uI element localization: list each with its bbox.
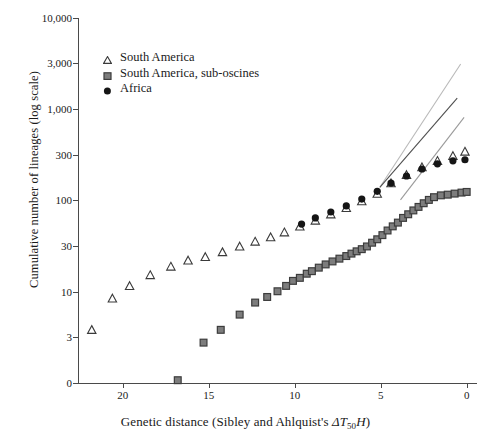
- data-point-triangle: [280, 228, 288, 236]
- data-point-circle: [374, 188, 381, 195]
- chart-figure: Cumulative number of lineages (log scale…: [0, 0, 491, 441]
- data-point-circle: [449, 157, 456, 164]
- data-point-square: [463, 189, 470, 196]
- data-point-circle: [312, 214, 319, 221]
- data-point-triangle: [218, 248, 226, 256]
- data-point-square: [217, 326, 224, 333]
- data-point-triangle: [251, 237, 259, 245]
- data-point-square: [431, 194, 438, 201]
- data-point-square: [236, 311, 243, 318]
- data-point-triangle: [266, 233, 274, 241]
- data-point-square: [283, 283, 290, 290]
- data-point-triangle: [184, 256, 192, 264]
- data-point-circle: [403, 172, 410, 179]
- data-point-circle: [327, 208, 334, 215]
- data-point-circle: [298, 220, 305, 227]
- data-point-square: [444, 191, 451, 198]
- data-point-square: [308, 268, 315, 275]
- data-point-circle: [418, 165, 425, 172]
- data-point-square: [296, 274, 303, 281]
- data-points-layer: [0, 0, 491, 441]
- data-point-triangle: [201, 253, 209, 261]
- data-point-triangle: [235, 242, 243, 250]
- data-point-square: [264, 294, 271, 301]
- data-point-triangle: [125, 282, 133, 290]
- data-point-square: [451, 190, 458, 197]
- data-point-triangle: [461, 147, 469, 155]
- data-point-circle: [461, 156, 468, 163]
- data-point-triangle: [108, 294, 116, 302]
- data-point-circle: [387, 180, 394, 187]
- data-point-triangle: [88, 326, 96, 334]
- data-point-square: [336, 255, 343, 262]
- data-point-square: [315, 264, 322, 271]
- data-point-square: [174, 377, 181, 384]
- data-point-circle: [343, 202, 350, 209]
- data-point-triangle: [146, 271, 154, 279]
- data-point-circle: [434, 160, 441, 167]
- data-point-square: [200, 339, 207, 346]
- data-point-square: [322, 261, 329, 268]
- data-point-square: [252, 299, 259, 306]
- data-point-circle: [358, 196, 365, 203]
- data-point-square: [329, 258, 336, 265]
- data-point-square: [290, 277, 297, 284]
- data-point-square: [274, 288, 281, 295]
- data-point-square: [437, 192, 444, 199]
- data-point-triangle: [167, 262, 175, 270]
